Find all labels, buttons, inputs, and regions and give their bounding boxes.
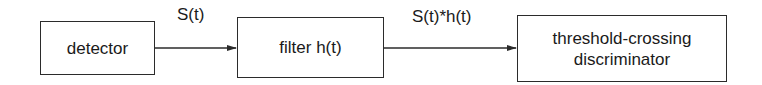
threshold-discriminator-block: threshold-crossing discriminator: [517, 15, 727, 82]
detector-block: detector: [40, 21, 155, 75]
threshold-block-label-line2: discriminator: [574, 49, 670, 70]
signal-label-convolved: S(t)*h(t): [412, 7, 472, 27]
threshold-block-label-line1: threshold-crossing: [553, 28, 692, 49]
signal-label-s-t: S(t): [177, 5, 204, 25]
filter-block: filter h(t): [237, 17, 384, 78]
detector-block-label: detector: [67, 38, 128, 59]
filter-block-label: filter h(t): [279, 37, 341, 58]
